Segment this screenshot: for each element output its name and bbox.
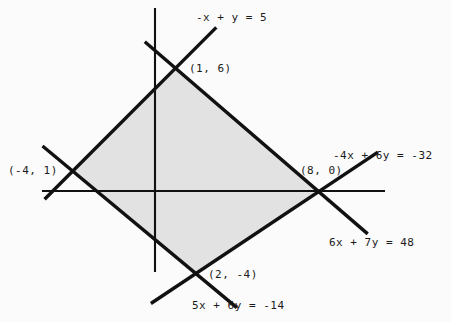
equation-label-6x-plus-7y-48: 6x + 7y = 48: [329, 237, 414, 248]
graph-figure: -x + y = 5 (1, 6) -4x + 6y = -32 (-4, 1)…: [0, 0, 451, 322]
equation-label-minus-4x-plus-6y-minus-32: -4x + 6y = -32: [333, 150, 433, 161]
vertex-label-minus-4-1: (-4, 1): [8, 165, 58, 176]
equation-label-5x-plus-6y-minus-14: 5x + 6y = -14: [192, 300, 285, 311]
vertex-label-1-6: (1, 6): [189, 63, 232, 74]
equation-label-minus-x-plus-y-5: -x + y = 5: [196, 12, 267, 23]
feasible-region-shading: [73, 68, 318, 272]
vertex-label-8-0: (8, 0): [300, 165, 343, 176]
vertex-label-2-minus-4: (2, -4): [208, 269, 258, 280]
